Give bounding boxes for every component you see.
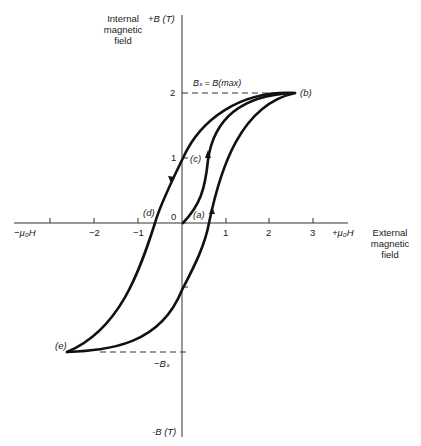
point-c-label: (c) — [190, 153, 201, 164]
bs-max-label: Bₛ = B(max) — [193, 78, 241, 89]
y-tick-2: 2 — [170, 87, 175, 98]
y-axis-title-line: field — [98, 35, 148, 46]
y-axis-title-line: magnetic — [98, 24, 148, 35]
y-axis-title-line: Internal — [98, 13, 148, 24]
hysteresis-diagram — [0, 0, 421, 446]
point-a-label: (a) — [193, 209, 205, 220]
y-axis-title: Internal magnetic field — [98, 13, 148, 46]
x-axis-right-label: +μ₀H — [332, 227, 354, 238]
x-tick-2: 2 — [266, 227, 271, 238]
point-b-label: (b) — [300, 87, 312, 98]
arrow-up-ascending-icon — [209, 207, 215, 214]
neg-bs-label: −Bₛ — [154, 358, 170, 369]
x-tick-neg1: −1 — [133, 227, 144, 238]
point-d-label: (d) — [143, 207, 155, 218]
y-axis-bottom-label: -B (T) — [152, 426, 176, 437]
point-e-label: (e) — [55, 340, 67, 351]
x-axis-title: External magnetic field — [364, 227, 416, 260]
x-axis-title-line: field — [364, 249, 416, 260]
x-axis-left-label: −μ₀H — [14, 227, 36, 238]
x-tick-3: 3 — [310, 227, 315, 238]
descending-branch-curve — [67, 93, 295, 352]
x-axis-title-line: External — [364, 227, 416, 238]
y-tick-1: 1 — [171, 152, 176, 163]
x-axis-title-line: magnetic — [364, 238, 416, 249]
y-axis-top-label: +B (T) — [148, 13, 175, 24]
origin-label: 0 — [171, 211, 176, 222]
x-tick-neg2: −2 — [89, 227, 100, 238]
x-tick-1: 1 — [223, 227, 228, 238]
